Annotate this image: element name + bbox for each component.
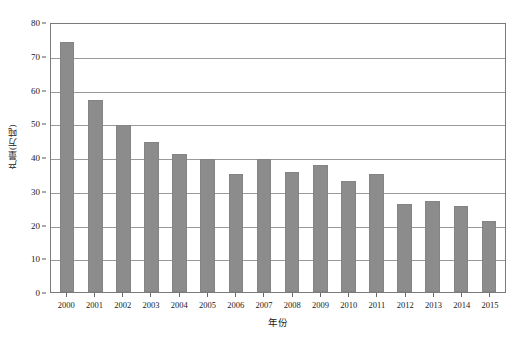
bar [229, 174, 244, 292]
x-axis-tick-mark [489, 293, 490, 297]
bar-slot [447, 24, 475, 292]
x-axis-tick-mark [179, 293, 180, 297]
x-axis-tick-mark [122, 293, 123, 297]
x-axis-tick-label: 2011 [363, 299, 391, 313]
bar [341, 181, 356, 292]
bar-slot [391, 24, 419, 292]
bar [425, 201, 440, 292]
y-axis-tick-labels: 01020304050607080 [22, 23, 46, 293]
x-axis-tick-label: 2015 [476, 299, 504, 313]
x-axis-tick-slot [476, 293, 504, 298]
x-axis-tick-mark [292, 293, 293, 297]
x-axis-tick-slot [109, 293, 137, 298]
plot-area [50, 23, 506, 293]
y-axis-tick-label: 10 [31, 255, 40, 264]
x-axis-tick-slot [391, 293, 419, 298]
x-axis-tick-mark [235, 293, 236, 297]
y-axis-tick-mark [42, 23, 46, 24]
y-axis-tick-label: 40 [31, 154, 40, 163]
x-axis-tick-label: 2001 [80, 299, 108, 313]
x-axis-tick-slot [52, 293, 80, 298]
x-axis-tick-slot [80, 293, 108, 298]
y-axis-tick-mark [42, 225, 46, 226]
x-axis-tick-slot [278, 293, 306, 298]
x-axis-tick-label: 2007 [250, 299, 278, 313]
y-axis-tick-mark [42, 293, 46, 294]
bar [313, 165, 328, 292]
x-axis-tick-labels: 2000200120022003200420052006200720082009… [50, 299, 506, 313]
x-axis-title: 年份 [50, 315, 506, 329]
x-axis-tick-slot [222, 293, 250, 298]
bar [116, 125, 131, 292]
x-axis-tick-label: 2004 [165, 299, 193, 313]
x-axis-tick-slot [250, 293, 278, 298]
bar-slot [53, 24, 81, 292]
y-axis-tick-label: 30 [31, 187, 40, 196]
x-axis-tick-label: 2008 [278, 299, 306, 313]
x-axis-tick-slot [363, 293, 391, 298]
y-axis-tick-label: 70 [31, 52, 40, 61]
bar-slot [137, 24, 165, 292]
bar-slot [166, 24, 194, 292]
x-axis-tick-label: 2009 [306, 299, 334, 313]
x-axis-tick-mark [320, 293, 321, 297]
x-axis-tick-mark [433, 293, 434, 297]
x-axis-tick-mark [461, 293, 462, 297]
x-axis-tick-mark [94, 293, 95, 297]
bar-slot [362, 24, 390, 292]
y-axis-tick-mark [42, 124, 46, 125]
x-axis-tick-label: 2012 [391, 299, 419, 313]
x-axis-tick-marks [50, 293, 506, 298]
bar-slot [194, 24, 222, 292]
x-axis-tick-mark [66, 293, 67, 297]
x-axis-tick-slot [165, 293, 193, 298]
x-axis-tick-mark [207, 293, 208, 297]
x-axis-tick-slot [419, 293, 447, 298]
bar [285, 172, 300, 292]
y-axis-tick-label: 80 [31, 19, 40, 28]
y-axis-tick-mark [42, 191, 46, 192]
bar-slot [306, 24, 334, 292]
y-axis-tick-label: 60 [31, 86, 40, 95]
bar [88, 100, 103, 292]
bar [172, 154, 187, 292]
x-axis-tick-label: 2013 [419, 299, 447, 313]
y-axis-tick-label: 50 [31, 120, 40, 129]
x-axis-tick-label: 2014 [448, 299, 476, 313]
x-axis-tick-label: 2003 [137, 299, 165, 313]
bar-slot [81, 24, 109, 292]
x-axis-tick-mark [376, 293, 377, 297]
y-axis-tick-mark [42, 90, 46, 91]
x-axis-tick-label: 2002 [109, 299, 137, 313]
x-axis-tick-label: 2000 [52, 299, 80, 313]
bar-slot [222, 24, 250, 292]
bar [397, 204, 412, 292]
bar-chart: 产量(万吨) 01020304050607080 200020012002200… [0, 0, 519, 340]
y-axis-tick-label: 0 [36, 289, 41, 298]
x-axis-tick-label: 2006 [222, 299, 250, 313]
y-axis-tick-label: 20 [31, 221, 40, 230]
x-axis-tick-slot [306, 293, 334, 298]
bar [482, 221, 497, 292]
bar-slot [109, 24, 137, 292]
bar-slot [278, 24, 306, 292]
x-axis-tick-slot [137, 293, 165, 298]
bar [454, 206, 469, 292]
bar [60, 42, 75, 292]
bar-slot [475, 24, 503, 292]
x-axis-tick-mark [348, 293, 349, 297]
x-axis-tick-slot [335, 293, 363, 298]
bar-slot [334, 24, 362, 292]
x-axis-tick-mark [263, 293, 264, 297]
bars-container [51, 24, 505, 292]
bar-slot [419, 24, 447, 292]
y-axis-tick-mark [42, 56, 46, 57]
x-axis-tick-label: 2005 [193, 299, 221, 313]
x-axis-tick-label: 2010 [335, 299, 363, 313]
x-axis-tick-mark [150, 293, 151, 297]
y-axis-title-label: 产量(万吨) [5, 124, 18, 169]
bar [257, 159, 272, 292]
bar [369, 174, 384, 292]
bar [200, 159, 215, 292]
y-axis-tick-mark [42, 259, 46, 260]
